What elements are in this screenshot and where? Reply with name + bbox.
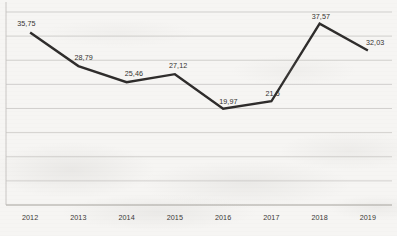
data-point-label: 27,12 [169, 61, 188, 70]
x-axis-tick-label: 2018 [302, 213, 338, 222]
x-axis-tick-label: 2014 [109, 213, 145, 222]
x-axis-tick-label: 2019 [350, 213, 386, 222]
data-point-label: 25,46 [125, 69, 144, 78]
data-point-label: 32,03 [366, 38, 385, 47]
x-axis-tick-label: 2016 [205, 213, 241, 222]
data-point-label: 28,79 [74, 53, 93, 62]
gridlines-group [6, 12, 392, 205]
line-chart-plot [0, 0, 397, 236]
data-point-label: 35,75 [17, 19, 36, 28]
x-axis-tick-label: 2017 [253, 213, 289, 222]
data-point-label: 21,5 [265, 89, 279, 98]
x-axis-tick-label: 2015 [157, 213, 193, 222]
x-axis-tick-label: 2013 [60, 213, 96, 222]
data-point-label: 19,97 [219, 97, 238, 106]
x-axis-tick-label: 2012 [12, 213, 48, 222]
chart-container: 35,7528,7925,4627,1219,9721,537,5732,03 … [0, 0, 397, 236]
data-point-label: 37,57 [312, 12, 331, 21]
